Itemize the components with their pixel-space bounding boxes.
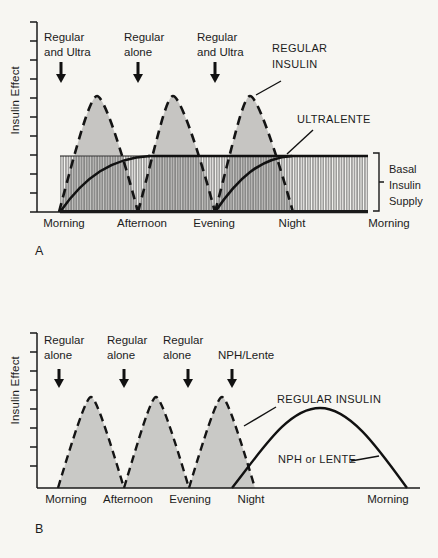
dose-arrow-icon (227, 369, 237, 388)
panel-b-letter: B (35, 522, 43, 536)
dose-arrow-icon (56, 62, 66, 83)
series-label-line: REGULAR (272, 40, 327, 56)
dose-arrow-icon (54, 369, 64, 388)
basal-label-line: Basal (389, 161, 423, 177)
annotation-line: and Ultra (197, 45, 244, 60)
annotation-regular-alone: Regular alone (124, 30, 164, 60)
regular-insulin-pointer-line (256, 81, 281, 95)
ultralente-series-label: ULTRALENTE (297, 111, 371, 127)
y-axis-label: Insulin Effect (9, 66, 21, 134)
panel-a-letter: A (35, 244, 43, 258)
panel-b-y-axis (30, 333, 37, 488)
x-tick-morning-1: Morning (45, 493, 87, 505)
peak-curve (124, 397, 189, 488)
y-axis-ticks (30, 333, 37, 466)
x-tick-morning-2: Morning (367, 493, 409, 505)
figure-graphics (0, 0, 438, 558)
panel-a-y-axis (30, 22, 37, 212)
annotation-regular-alone-1: Regular alone (44, 333, 84, 363)
x-tick-evening: Evening (193, 217, 235, 229)
annotation-line: alone (163, 348, 203, 363)
x-tick-morning-2: Morning (368, 217, 410, 229)
peak-curve (138, 96, 215, 212)
annotation-line: Regular (124, 30, 164, 45)
series-label-line: INSULIN (272, 56, 327, 72)
x-tick-night: Night (279, 217, 306, 229)
annotation-line: Regular (163, 333, 203, 348)
dose-arrow-icon (210, 62, 220, 83)
y-axis-ticks (30, 22, 37, 212)
annotation-regular-alone-2: Regular alone (107, 333, 147, 363)
y-axis-label: Insulin Effect (9, 356, 21, 424)
basal-supply-bracket (373, 153, 384, 211)
regular-insulin-series-label: REGULAR INSULIN (277, 391, 381, 407)
annotation-line: alone (44, 348, 84, 363)
dose-arrows-b (54, 369, 237, 388)
peak-curve (189, 397, 255, 488)
dose-arrows-a (56, 62, 220, 83)
x-tick-afternoon: Afternoon (117, 217, 167, 229)
annotation-line: Regular (197, 30, 244, 45)
x-tick-morning-1: Morning (43, 217, 85, 229)
x-tick-afternoon: Afternoon (103, 493, 153, 505)
x-tick-night: Night (238, 493, 265, 505)
x-tick-evening: Evening (169, 493, 211, 505)
dose-arrow-icon (133, 62, 143, 83)
regular-insulin-series-label: REGULAR INSULIN (272, 40, 327, 72)
annotation-line: alone (107, 348, 147, 363)
annotation-line: Regular (44, 333, 84, 348)
peak-curve (58, 397, 124, 488)
insulin-effect-figure: Insulin Effect Regular and Ultra Regular… (0, 0, 438, 558)
regular-insulin-peaks-a (59, 96, 293, 212)
annotation-nph-lente: NPH/Lente (218, 348, 274, 363)
annotation-regular-alone-3: Regular alone (163, 333, 203, 363)
nph-lente-curve (232, 408, 407, 488)
dose-arrow-icon (119, 369, 129, 388)
peak-curve (59, 96, 138, 212)
annotation-line: Regular (44, 30, 91, 45)
nph-or-lente-series-label: NPH or LENTE (278, 451, 356, 467)
regular-insulin-pointer-line (244, 407, 276, 426)
basal-insulin-supply-label: Basal Insulin Supply (389, 161, 423, 209)
dose-arrow-icon (183, 369, 193, 388)
annotation-line: Regular (107, 333, 147, 348)
ultralente-pointer-line (287, 130, 313, 154)
annotation-regular-and-ultra-2: Regular and Ultra (197, 30, 244, 60)
annotation-line: and Ultra (44, 45, 91, 60)
basal-label-line: Supply (389, 193, 423, 209)
basal-label-line: Insulin (389, 177, 423, 193)
regular-insulin-peaks-b (58, 397, 255, 488)
annotation-line: alone (124, 45, 164, 60)
annotation-regular-and-ultra-1: Regular and Ultra (44, 30, 91, 60)
